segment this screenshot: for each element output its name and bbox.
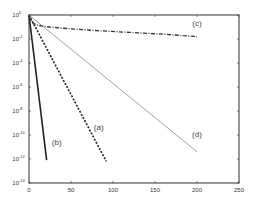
y-tick-label-exponent: -10 <box>19 130 26 135</box>
series-line-c <box>29 15 197 37</box>
series-line-b <box>29 15 47 160</box>
y-tick-label-exponent: -12 <box>19 154 26 159</box>
x-tick-label: 200 <box>192 187 203 193</box>
chart: 050100150200250 10010-210-410-610-810-10… <box>0 0 258 203</box>
curve-label-a: (a) <box>94 123 104 132</box>
y-tick-label-exponent: -8 <box>19 106 23 111</box>
y-tick-label-exponent: -6 <box>19 82 23 87</box>
y-tick-label-exponent: -14 <box>19 178 26 183</box>
series-line-d <box>29 15 197 152</box>
x-tick-label: 0 <box>27 187 31 193</box>
curve-label-b: (b) <box>52 138 62 147</box>
series-line-a <box>29 15 106 161</box>
x-tick-label: 50 <box>68 187 75 193</box>
curve-label-d: (d) <box>192 130 202 139</box>
y-tick-label-exponent: -2 <box>19 34 23 39</box>
x-tick-label: 100 <box>108 187 119 193</box>
y-tick-label-exponent: 0 <box>19 10 22 15</box>
x-tick-label: 150 <box>150 187 161 193</box>
curve-labels: (a)(b)(c)(d) <box>52 19 202 147</box>
y-tick-label-exponent: -4 <box>19 58 23 63</box>
curve-label-c: (c) <box>192 19 202 28</box>
x-tick-label: 250 <box>234 187 245 193</box>
x-axis: 050100150200250 <box>27 15 244 193</box>
